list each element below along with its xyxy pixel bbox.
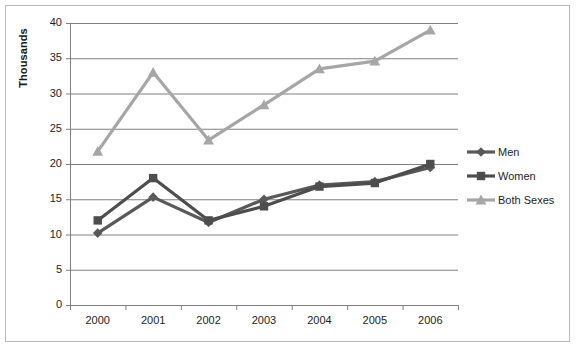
data-point-marker [315,182,323,190]
y-tick-label: 0 [34,298,62,310]
series-both-sexes [92,25,435,156]
legend-marker-triangle-icon [466,193,496,207]
series-men [93,163,435,238]
legend-label: Men [498,146,519,158]
data-point-marker [425,25,436,35]
y-tick-label: 35 [34,51,62,63]
data-point-marker [476,147,486,157]
x-tick-label: 2006 [407,314,453,326]
y-tick-label: 30 [34,87,62,99]
legend-label: Both Sexes [498,194,554,206]
data-point-marker [148,67,159,77]
chart-figure: Thousands 0510152025303540 2000200120022… [0,0,576,353]
series-line [98,30,431,151]
x-tick-label: 2000 [75,314,121,326]
series-line [98,164,431,220]
legend-marker-square-icon [466,169,496,183]
y-tick-label: 10 [34,228,62,240]
legend-marker-diamond-icon [466,145,496,159]
x-tick-label: 2005 [352,314,398,326]
y-tick-label: 20 [34,157,62,169]
y-tick-label: 5 [34,263,62,275]
data-point-marker [260,202,268,210]
data-point-marker [426,160,434,168]
x-tick-label: 2001 [130,314,176,326]
legend-label: Women [498,170,536,182]
data-point-marker [204,216,212,224]
y-tick-label: 25 [34,122,62,134]
legend-item-men[interactable]: Men [466,140,570,164]
legend-item-women[interactable]: Women [466,164,570,188]
data-point-marker [477,172,485,180]
data-point-marker [371,179,379,187]
data-point-marker [94,216,102,224]
data-point-marker [149,174,157,182]
legend-item-both-sexes[interactable]: Both Sexes [466,188,570,212]
x-tick-label: 2002 [186,314,232,326]
chart-legend: MenWomenBoth Sexes [466,140,570,212]
gridlines [66,24,458,306]
y-tick-label: 15 [34,192,62,204]
series-layer [92,25,435,238]
y-tick-label: 40 [34,16,62,28]
x-tick-label: 2004 [296,314,342,326]
series-women [94,160,435,225]
x-tick-label: 2003 [241,314,287,326]
